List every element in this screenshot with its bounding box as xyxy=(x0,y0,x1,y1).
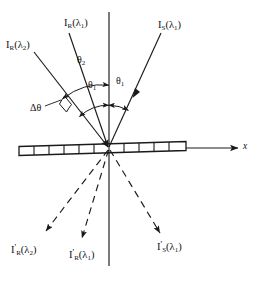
ray-argument-close: ) xyxy=(178,241,182,252)
figure-drawing xyxy=(0,0,260,282)
delta-theta-symbol: Δθ xyxy=(30,102,41,113)
figure-root: IR(λ2) IR(λ1) IS(λ1) θ2 θ1 θ1 Δθ x I'R(λ… xyxy=(0,0,260,282)
ray-scattered-S-lambda1 xyxy=(109,33,161,147)
arc-delta-theta xyxy=(45,96,72,112)
label-transmitted-ray-S-prime-lambda1: I'S(λ1) xyxy=(157,240,182,254)
label-incident-ray-R-lambda1: IR(λ1) xyxy=(64,18,88,30)
ray-argument-close: ) xyxy=(84,17,88,28)
ray-argument-close: ) xyxy=(178,19,182,30)
label-angle-delta-theta: Δθ xyxy=(30,103,41,113)
label-incident-ray-R-lambda2: IR(λ2) xyxy=(6,40,30,52)
ray-argument-close: ) xyxy=(91,249,95,260)
angle-subscript: 1 xyxy=(93,84,97,92)
ray-argument: (λ xyxy=(166,241,175,252)
label-transmitted-ray-R-prime-lambda1: I'R(λ1) xyxy=(69,248,94,262)
arc-theta2 xyxy=(63,85,109,99)
ray-transmitted-R-lambda2 xyxy=(46,150,108,231)
label-angle-theta1-left: θ1 xyxy=(88,80,96,92)
ray-argument: (λ xyxy=(72,17,81,28)
grating-slab xyxy=(19,142,186,156)
ray-argument-close: ) xyxy=(26,39,30,50)
label-angle-theta2: θ2 xyxy=(77,55,85,67)
ray-argument: (λ xyxy=(165,19,174,30)
ray-argument: (λ xyxy=(14,39,23,50)
label-angle-theta1-right: θ1 xyxy=(116,76,124,88)
label-scattered-ray-S-lambda1: IS(λ1) xyxy=(158,20,181,32)
ray-argument-close: ) xyxy=(33,244,37,255)
label-transmitted-ray-R-prime-lambda2: I'R(λ2) xyxy=(11,243,36,257)
label-x-axis: x xyxy=(243,142,247,152)
ray-incident-R-lambda2 xyxy=(34,52,108,147)
angle-subscript: 2 xyxy=(82,59,86,67)
angle-subscript: 1 xyxy=(121,80,125,88)
ray-transmitted-R-lambda1 xyxy=(82,150,109,238)
ray-transmitted-S-lambda1 xyxy=(110,150,160,233)
